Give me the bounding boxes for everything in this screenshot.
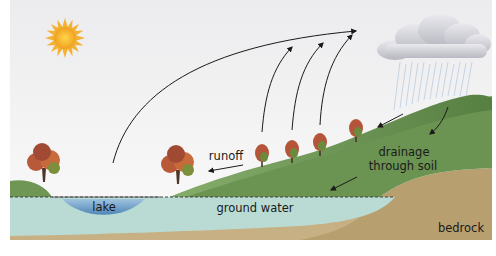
water-cycle-diagram: lake ground water bedrock runoff drainag… xyxy=(0,0,496,256)
label-runoff: runoff xyxy=(209,149,244,163)
label-through-soil: through soil xyxy=(369,159,437,173)
label-lake: lake xyxy=(92,200,116,214)
label-drainage: drainage xyxy=(379,145,430,159)
label-ground-water: ground water xyxy=(216,201,293,215)
sun-icon xyxy=(45,18,85,58)
label-bedrock: bedrock xyxy=(438,221,485,235)
